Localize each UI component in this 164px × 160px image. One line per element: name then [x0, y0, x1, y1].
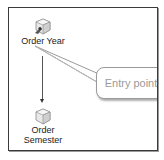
hierarchy-arrow: [42, 56, 43, 100]
node-order-semester[interactable]: Order Semester: [15, 108, 71, 145]
callout-text: Entry point: [97, 77, 158, 89]
cube-attribute-icon: [35, 108, 51, 125]
diagram-canvas: Order Year Order Semester Entry point: [8, 7, 158, 151]
arrowhead-icon: [40, 99, 44, 103]
node-label: Order Year: [15, 36, 71, 46]
node-order-year[interactable]: Order Year: [15, 18, 71, 46]
node-label-line1: Order: [15, 125, 71, 135]
entry-point-callout: Entry point: [96, 67, 158, 99]
cube-attribute-key-icon: [34, 18, 52, 36]
connector-stub: [42, 150, 43, 151]
node-label-line2: Semester: [15, 135, 71, 145]
